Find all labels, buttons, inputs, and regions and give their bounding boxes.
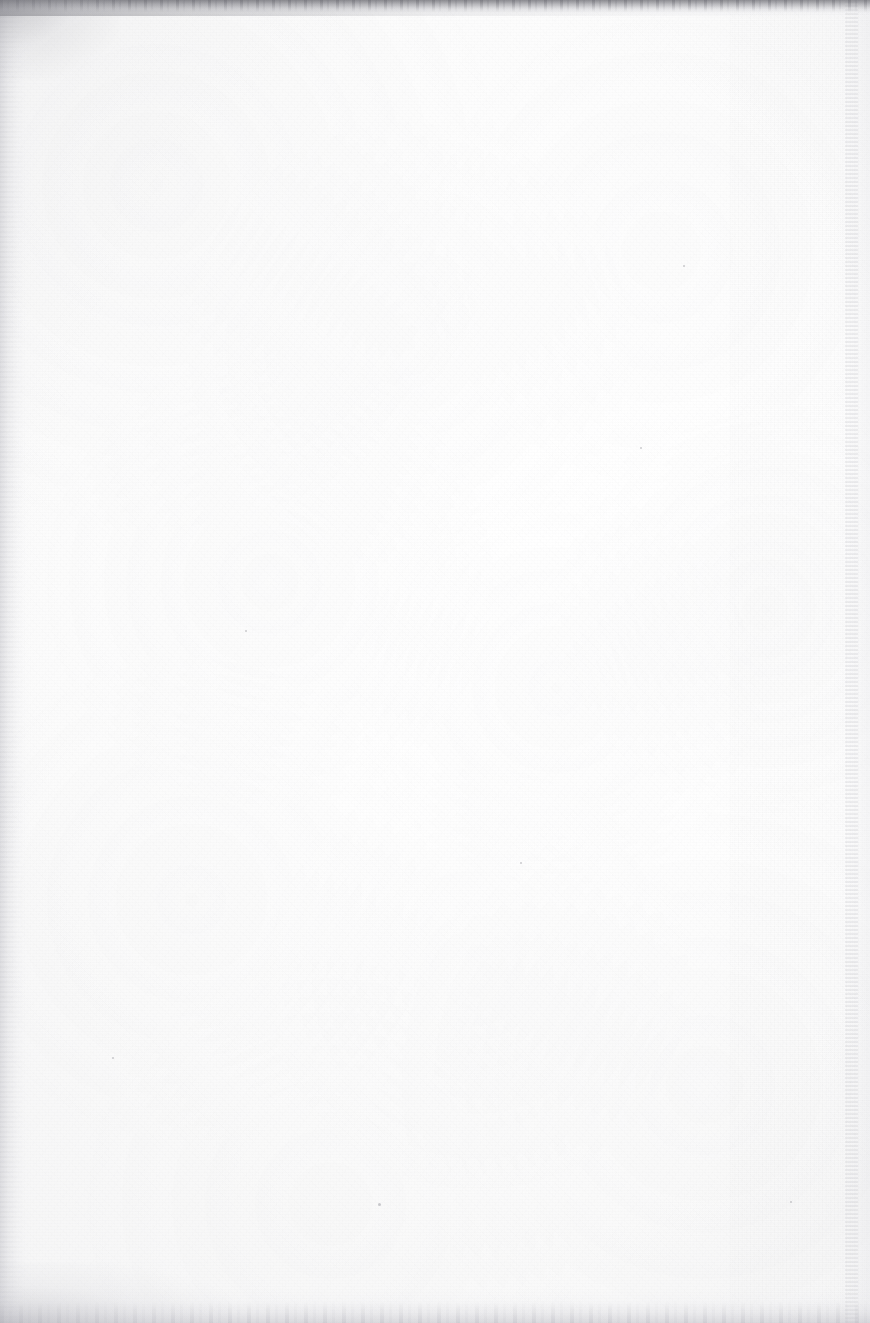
scanned-page [0, 0, 870, 1323]
page-text-content [0, 0, 870, 1323]
